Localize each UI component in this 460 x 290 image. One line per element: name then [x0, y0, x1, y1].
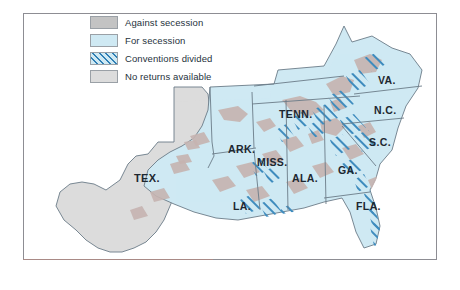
legend-swatch-divided-icon	[90, 52, 118, 65]
state-label-nc: N.C.	[374, 104, 397, 116]
legend-item-noreturns[interactable]: No returns available	[90, 69, 212, 84]
map-legend: Against secession For secession Conventi…	[90, 15, 212, 87]
legend-label-noreturns: No returns available	[125, 71, 212, 82]
state-label-ga: GA.	[338, 164, 358, 176]
state-label-tenn: TENN.	[279, 108, 313, 120]
secession-map: TEX. ARK. LA. MISS. ALA. TENN. GA. FLA. …	[24, 14, 436, 259]
legend-swatch-against-icon	[90, 16, 118, 29]
state-label-miss: MISS.	[257, 156, 288, 168]
map-figure: TEX. ARK. LA. MISS. ALA. TENN. GA. FLA. …	[0, 0, 460, 290]
state-label-sc: S.C.	[369, 136, 391, 148]
legend-item-divided[interactable]: Conventions divided	[90, 51, 212, 66]
legend-label-against: Against secession	[125, 17, 203, 28]
state-label-ark: ARK.	[228, 143, 255, 155]
state-label-ala: ALA.	[292, 172, 318, 184]
state-label-va: VA.	[378, 74, 396, 86]
legend-swatch-noreturns-icon	[90, 70, 118, 83]
state-label-fla: FLA.	[356, 200, 381, 212]
legend-label-divided: Conventions divided	[125, 53, 212, 64]
state-label-tex: TEX.	[134, 172, 160, 184]
map-svg: TEX. ARK. LA. MISS. ALA. TENN. GA. FLA. …	[24, 14, 436, 259]
legend-item-against[interactable]: Against secession	[90, 15, 212, 30]
legend-swatch-for-icon	[90, 34, 118, 47]
legend-item-for[interactable]: For secession	[90, 33, 212, 48]
state-label-la: LA.	[233, 200, 251, 212]
legend-label-for: For secession	[125, 35, 185, 46]
